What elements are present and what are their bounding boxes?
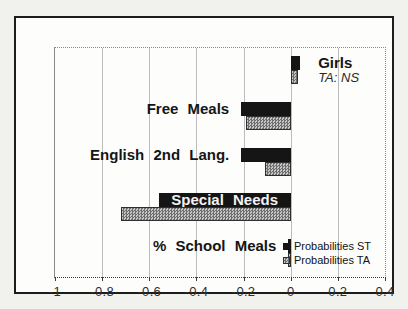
legend-swatch-st	[283, 243, 290, 250]
category-label-girls: Girls	[318, 56, 352, 70]
bar-probabilities-ta-girls	[291, 70, 298, 84]
x-tick	[196, 277, 197, 281]
legend-label: Probabilities ST	[294, 239, 371, 253]
x-tick	[244, 277, 245, 281]
bar-probabilities-ta-special-needs	[121, 207, 291, 221]
x-tick	[55, 277, 56, 281]
legend-item-probabilities-st: Probabilities ST	[283, 239, 371, 253]
bar-probabilities-st-girls	[291, 56, 300, 70]
x-tick	[338, 277, 339, 281]
x-tick-label: -0.8	[90, 284, 114, 299]
annotation-ta-ns: TA: NS	[318, 71, 359, 84]
category-label-school-meals: % School Meals	[153, 239, 276, 253]
legend-label: Probabilities TA	[294, 253, 370, 267]
bar-probabilities-ta-free-meals	[246, 116, 291, 130]
x-tick	[102, 277, 103, 281]
category-label-free-meals: Free Meals	[147, 102, 230, 116]
legend-swatch-ta	[283, 257, 290, 264]
x-tick-label: -1	[49, 284, 61, 299]
x-tick	[149, 277, 150, 281]
bar-probabilities-ta-english-2nd-lang	[265, 162, 291, 176]
category-label-english-2nd-lang: English 2nd Lang.	[90, 148, 229, 162]
bar-probabilities-st-english-2nd-lang	[241, 148, 291, 162]
x-tick-label: -0.4	[185, 284, 209, 299]
x-tick-label: -0.6	[137, 284, 161, 299]
x-tick-label: -0.2	[232, 284, 256, 299]
bar-chart-figure: -1-0.8-0.6-0.4-0.200.20.4GirlsFree Meals…	[0, 0, 408, 309]
bar-probabilities-st-free-meals	[241, 102, 291, 116]
category-label-special-needs: Special Needs	[159, 193, 291, 207]
x-tick-label: 0	[287, 284, 295, 299]
plot-area: -1-0.8-0.6-0.4-0.200.20.4GirlsFree Meals…	[54, 47, 386, 278]
x-tick	[291, 277, 292, 281]
chart-frame: -1-0.8-0.6-0.4-0.200.20.4GirlsFree Meals…	[14, 16, 394, 294]
x-tick-label: 0.4	[376, 284, 395, 299]
x-tick-label: 0.2	[328, 284, 347, 299]
legend-item-probabilities-ta: Probabilities TA	[283, 253, 370, 267]
x-tick	[385, 277, 386, 281]
